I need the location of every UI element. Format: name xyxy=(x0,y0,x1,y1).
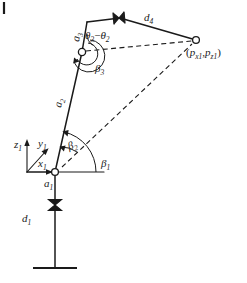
label-x1: x1 xyxy=(37,157,47,172)
dashed-line-origin-to-endpoint xyxy=(62,44,192,167)
angle-arc-beta1 xyxy=(62,130,96,172)
prismatic-joint-d4-icon xyxy=(113,12,125,24)
link-d4-distal xyxy=(120,18,196,40)
revolute-joint-origin xyxy=(52,169,59,176)
prismatic-joint-base-icon xyxy=(48,200,62,211)
label-d4: d4 xyxy=(144,11,154,26)
label-beta2: β2 xyxy=(65,138,79,155)
label-d1: d1 xyxy=(22,212,31,227)
kinematic-diagram: a1 d1 a2 a3 d4 β1 β2 β3 xyxy=(0,0,247,283)
axis-z1 xyxy=(24,139,29,172)
label-endpoint-coordinates: (px1,pz1) xyxy=(186,46,221,61)
label-beta1: β1 xyxy=(100,157,110,172)
label-a1: a1 xyxy=(44,177,53,192)
revolute-joint-middle xyxy=(78,48,85,55)
endpoint-joint-marker xyxy=(193,37,200,44)
label-z1: z1 xyxy=(13,138,22,153)
label-a3: a3 xyxy=(69,31,85,43)
link-a2 xyxy=(55,52,82,172)
kinematic-diagram-canvas: a1 d1 a2 a3 d4 β1 β2 β3 xyxy=(0,0,247,283)
label-y1: y1 xyxy=(37,137,47,152)
label-a2: a2 xyxy=(51,97,67,109)
